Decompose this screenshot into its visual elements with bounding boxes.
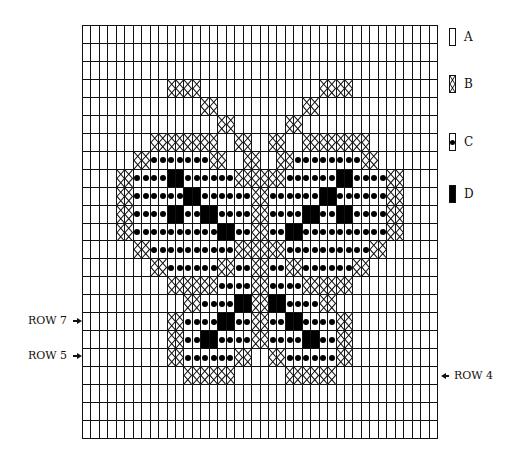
dot-cell	[302, 312, 310, 330]
empty-cell	[285, 402, 293, 420]
empty-cell	[82, 223, 90, 241]
cross-stitch-cell	[217, 151, 225, 169]
empty-cell	[293, 420, 301, 438]
empty-cell	[251, 25, 259, 43]
empty-cell	[302, 61, 310, 79]
empty-cell	[183, 115, 191, 133]
empty-cell	[403, 169, 411, 187]
dot-cell	[183, 348, 191, 366]
cross-stitch-cell	[268, 133, 276, 151]
empty-cell	[150, 348, 158, 366]
empty-cell	[90, 187, 98, 205]
cross-stitch-cell	[200, 133, 208, 151]
empty-cell	[285, 43, 293, 61]
dot-cell	[200, 348, 208, 366]
empty-cell	[403, 366, 411, 384]
empty-cell	[268, 384, 276, 402]
empty-cell	[293, 25, 301, 43]
cross-stitch-cell	[167, 276, 175, 294]
empty-cell	[429, 330, 437, 348]
empty-cell	[412, 205, 420, 223]
empty-cell	[251, 61, 259, 79]
dot-cell	[200, 258, 208, 276]
empty-cell	[412, 169, 420, 187]
dot-cell	[175, 187, 183, 205]
empty-cell	[243, 115, 251, 133]
dot-cell	[327, 312, 335, 330]
empty-cell	[116, 79, 124, 97]
empty-cell	[90, 115, 98, 133]
cross-stitch-cell	[369, 151, 377, 169]
empty-cell	[336, 294, 344, 312]
cross-stitch-cell	[293, 258, 301, 276]
filled-cell	[167, 169, 175, 187]
empty-cell	[420, 187, 428, 205]
dot-cell	[200, 294, 208, 312]
dot-cell	[175, 151, 183, 169]
empty-cell	[395, 330, 403, 348]
empty-cell	[226, 79, 234, 97]
filled-cell	[344, 205, 352, 223]
empty-cell	[302, 43, 310, 61]
empty-cell	[167, 366, 175, 384]
empty-cell	[268, 115, 276, 133]
dot-cell	[226, 169, 234, 187]
empty-cell	[82, 151, 90, 169]
empty-cell	[403, 312, 411, 330]
cross-stitch-cell	[395, 205, 403, 223]
empty-cell	[217, 97, 225, 115]
cross-stitch-cell	[302, 97, 310, 115]
dot-cell	[319, 348, 327, 366]
empty-cell	[403, 294, 411, 312]
empty-cell	[412, 402, 420, 420]
dot-cell	[167, 151, 175, 169]
empty-cell	[82, 240, 90, 258]
empty-cell	[82, 348, 90, 366]
dot-cell-icon	[449, 133, 456, 151]
empty-cell	[234, 79, 242, 97]
empty-cell	[352, 366, 360, 384]
cross-stitch-cell	[251, 169, 259, 187]
empty-cell	[226, 384, 234, 402]
empty-cell	[175, 115, 183, 133]
empty-cell	[251, 420, 259, 438]
empty-cell	[251, 79, 259, 97]
dot-cell	[209, 187, 217, 205]
dot-cell	[361, 169, 369, 187]
empty-cell	[90, 330, 98, 348]
empty-cell	[369, 115, 377, 133]
filled-cell	[200, 205, 208, 223]
empty-cell	[369, 312, 377, 330]
empty-cell	[361, 366, 369, 384]
dot-cell	[268, 330, 276, 348]
dot-cell	[302, 151, 310, 169]
dot-cell	[302, 169, 310, 187]
empty-cell	[217, 43, 225, 61]
cross-stitch-cell	[260, 312, 268, 330]
cross-stitch-cell	[243, 169, 251, 187]
empty-cell	[412, 187, 420, 205]
empty-cell	[403, 384, 411, 402]
empty-cell	[99, 187, 107, 205]
empty-cell	[403, 25, 411, 43]
empty-cell	[124, 348, 132, 366]
cross-stitch-cell	[268, 240, 276, 258]
dot-cell	[361, 187, 369, 205]
cross-stitch-cell	[251, 330, 259, 348]
empty-cell	[420, 420, 428, 438]
dot-cell	[183, 205, 191, 223]
empty-cell	[107, 348, 115, 366]
cross-stitch-cell	[124, 205, 132, 223]
empty-cell	[251, 402, 259, 420]
empty-cell	[243, 384, 251, 402]
cross-stitch-cell	[260, 169, 268, 187]
dot-cell	[226, 348, 234, 366]
dot-cell	[217, 240, 225, 258]
cross-stitch-cell	[352, 133, 360, 151]
empty-cell	[82, 61, 90, 79]
empty-cell	[403, 348, 411, 366]
filled-cell	[175, 205, 183, 223]
empty-cell	[429, 205, 437, 223]
dot-cell	[268, 312, 276, 330]
empty-cell	[158, 384, 166, 402]
